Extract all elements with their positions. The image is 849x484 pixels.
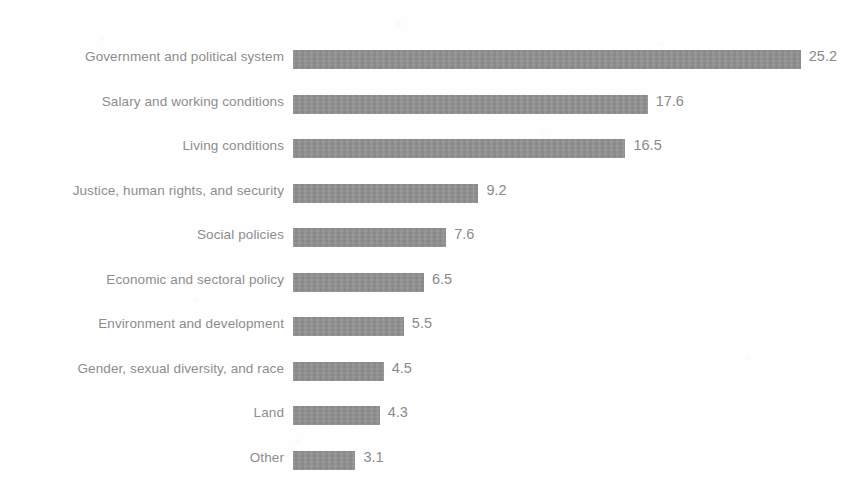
bar-fill: [293, 406, 380, 425]
category-label: Social policies: [0, 225, 284, 244]
bar-value-label: 3.1: [363, 448, 383, 467]
bar-row: Economic and sectoral policy6.5: [0, 273, 849, 292]
bar: [293, 451, 355, 470]
category-label: Economic and sectoral policy: [0, 270, 284, 289]
bar-fill: [293, 273, 424, 292]
bar-row: Living conditions16.5: [0, 139, 849, 158]
bar-row: Justice, human rights, and security9.2: [0, 184, 849, 203]
bar-value-label: 9.2: [486, 181, 506, 200]
category-label: Living conditions: [0, 136, 284, 155]
bar: [293, 228, 446, 247]
bar-value-label: 7.6: [454, 225, 474, 244]
bar-fill: [293, 139, 625, 158]
bar-value-label: 4.3: [388, 403, 408, 422]
bar-row: Other3.1: [0, 451, 849, 470]
bar-fill: [293, 228, 446, 247]
bar-fill: [293, 50, 801, 69]
bar-fill: [293, 184, 478, 203]
bar-value-label: 6.5: [432, 270, 452, 289]
bar: [293, 50, 801, 69]
bar-row: Land4.3: [0, 406, 849, 425]
bar-value-label: 25.2: [809, 47, 837, 66]
bar: [293, 184, 478, 203]
bar-fill: [293, 317, 404, 336]
bar-fill: [293, 451, 355, 470]
bar-row: Environment and development5.5: [0, 317, 849, 336]
category-label: Environment and development: [0, 314, 284, 333]
chart-plot-area: Government and political system25.2Salar…: [0, 0, 849, 484]
bar-value-label: 4.5: [392, 359, 412, 378]
bar: [293, 139, 625, 158]
bar-row: Salary and working conditions17.6: [0, 95, 849, 114]
bar-row: Social policies7.6: [0, 228, 849, 247]
category-label: Land: [0, 403, 284, 422]
bar-value-label: 17.6: [656, 92, 684, 111]
category-label: Salary and working conditions: [0, 92, 284, 111]
bar: [293, 95, 648, 114]
bar: [293, 406, 380, 425]
category-label: Government and political system: [0, 47, 284, 66]
bar: [293, 362, 384, 381]
bar: [293, 317, 404, 336]
bar-row: Gender, sexual diversity, and race4.5: [0, 362, 849, 381]
bar-value-label: 16.5: [633, 136, 661, 155]
bar-fill: [293, 362, 384, 381]
category-label: Other: [0, 448, 284, 467]
bar-fill: [293, 95, 648, 114]
bar-chart: Government and political system25.2Salar…: [0, 0, 849, 484]
category-label: Justice, human rights, and security: [0, 181, 284, 200]
bar-row: Government and political system25.2: [0, 50, 849, 69]
bar: [293, 273, 424, 292]
bar-value-label: 5.5: [412, 314, 432, 333]
category-label: Gender, sexual diversity, and race: [0, 359, 284, 378]
